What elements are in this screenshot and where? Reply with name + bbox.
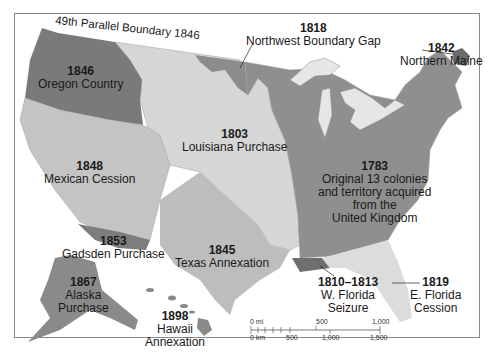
scale-bar: 0 mi 500 1,000 0 km 500 1,000 1,500 [250, 318, 390, 342]
label-gadsden-purchase: 1853 Gadsden Purchase [62, 235, 165, 261]
label-northwest-gap: 1818 Northwest Boundary Gap [246, 22, 381, 48]
label-texas-annexation: 1845 Texas Annexation [175, 244, 269, 270]
label-mexican-cession: 1848 Mexican Cession [44, 160, 135, 186]
label-e-florida-cession: 1819 E. Florida Cession [410, 276, 461, 315]
label-hawaii-annexation: 1898 Hawaii Annexation [145, 310, 205, 349]
label-northern-maine: 1842 Northern Maine [400, 42, 483, 68]
label-louisiana-purchase: 1803 Louisiana Purchase [182, 128, 287, 154]
scale-ruler [250, 326, 390, 334]
label-original-13: 1783 Original 13 colonies and territory … [318, 160, 431, 225]
label-oregon-country: 1846 Oregon Country [38, 65, 123, 91]
label-w-florida-seizure: 1810–1813 W. Florida Seizure [318, 276, 378, 315]
label-alaska-purchase: 1867 Alaska Purchase [58, 276, 109, 315]
